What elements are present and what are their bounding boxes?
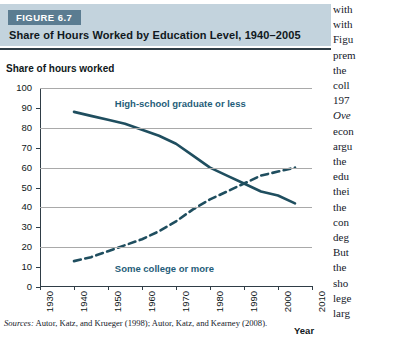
gridline: [40, 207, 312, 208]
x-tick-mark: [74, 286, 75, 290]
y-tick-label: 20: [10, 241, 32, 252]
y-axis-title: Share of hours worked: [6, 63, 114, 74]
y-tick-label: 80: [10, 122, 32, 133]
y-tick-label: 50: [10, 182, 32, 193]
body-text-line: edu: [333, 169, 395, 184]
sources-label: Sources:: [4, 318, 34, 328]
gridline: [40, 128, 312, 129]
body-text-line: sho: [333, 276, 395, 291]
y-tick-mark: [36, 188, 40, 189]
y-tick-mark: [36, 227, 40, 228]
body-text-line: Figu: [333, 32, 395, 47]
series-line-1: [74, 112, 295, 204]
body-text-line: econ: [333, 124, 395, 139]
gridline: [40, 88, 312, 89]
body-text-line: lege: [333, 291, 395, 306]
x-tick-label: 1940: [78, 291, 89, 312]
body-text-line: with: [333, 2, 395, 17]
y-tick-mark: [36, 267, 40, 268]
body-text-line: deg: [333, 230, 395, 245]
x-tick-label: 1980: [214, 291, 225, 312]
y-tick-label: 40: [10, 201, 32, 212]
header-divider: [0, 48, 331, 50]
x-tick-label: 1970: [180, 291, 191, 312]
sources-citation: Autor, Katz, and Krueger (1998); Autor, …: [34, 318, 267, 328]
y-tick-label: 60: [10, 162, 32, 173]
series-lines: [40, 88, 312, 287]
body-text-line: the: [333, 63, 395, 78]
body-text-line: thei: [333, 184, 395, 199]
gridline: [40, 168, 312, 169]
body-text-line: the: [333, 154, 395, 169]
y-tick-label: 0: [10, 281, 32, 292]
y-tick-label: 30: [10, 221, 32, 232]
x-tick-mark: [244, 286, 245, 290]
body-text-line: con: [333, 215, 395, 230]
x-tick-mark: [278, 286, 279, 290]
body-text-line: larg: [333, 306, 395, 321]
series-annotation-1: High-school graduate or less: [115, 98, 246, 109]
figure-panel: FIGURE 6.7 Share of Hours Worked by Educ…: [0, 0, 331, 337]
figure-title: Share of Hours Worked by Education Level…: [9, 29, 301, 41]
series-annotation-2: Some college or more: [115, 263, 214, 274]
body-text-line: But: [333, 245, 395, 260]
body-text-line: coll: [333, 78, 395, 93]
y-tick-label: 10: [10, 261, 32, 272]
x-tick-mark: [108, 286, 109, 290]
page-body-text-column: withwithFigupremthecoll197Oveeconarguthe…: [333, 0, 395, 337]
x-tick-mark: [210, 286, 211, 290]
x-tick-label: 1960: [146, 291, 157, 312]
y-tick-mark: [36, 108, 40, 109]
body-text-line: 197: [333, 93, 395, 108]
y-tick-label: 100: [10, 82, 32, 93]
body-text-line: the: [333, 200, 395, 215]
figure-number-badge: FIGURE 6.7: [8, 10, 81, 25]
x-tick-mark: [40, 286, 41, 290]
figure-page: FIGURE 6.7 Share of Hours Worked by Educ…: [0, 0, 395, 337]
y-tick-label: 70: [10, 142, 32, 153]
y-tick-label: 90: [10, 102, 32, 113]
body-text-line: prem: [333, 48, 395, 63]
x-tick-label: 2000: [282, 291, 293, 312]
x-tick-label: 2010: [316, 291, 327, 312]
sources-note: Sources: Autor, Katz, and Krueger (1998)…: [4, 318, 267, 328]
y-tick-mark: [36, 148, 40, 149]
x-tick-label: 1930: [44, 291, 55, 312]
chart-plot-area: 0102030405060708090100193019401950196019…: [40, 88, 312, 287]
x-tick-mark: [312, 286, 313, 290]
body-text-line: Ove: [333, 108, 395, 123]
x-tick-label: 1950: [112, 291, 123, 312]
body-text-line: with: [333, 17, 395, 32]
body-text-line: argu: [333, 139, 395, 154]
x-tick-mark: [142, 286, 143, 290]
x-axis-title: Year: [294, 325, 314, 336]
body-text-line: the: [333, 260, 395, 275]
x-tick-mark: [176, 286, 177, 290]
figure-header-banner: FIGURE 6.7 Share of Hours Worked by Educ…: [0, 4, 331, 46]
x-tick-label: 1990: [248, 291, 259, 312]
gridline: [40, 247, 312, 248]
